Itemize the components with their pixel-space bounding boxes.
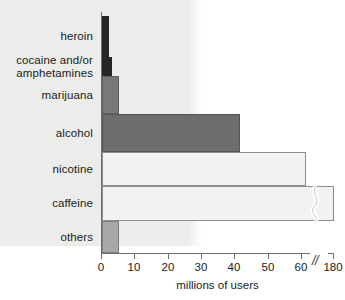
- bar-alcohol: [102, 114, 240, 152]
- category-label-caffeine: caffeine: [0, 197, 93, 210]
- category-label-alcohol: alcohol: [0, 127, 93, 140]
- category-label-nicotine: nicotine: [0, 163, 93, 176]
- axis-break-squiggle-icon: [305, 186, 327, 221]
- x-tick-label-10: 10: [128, 261, 141, 273]
- bar-others: [102, 221, 119, 253]
- category-label-marijuana: marijuana: [0, 89, 93, 102]
- bar-caffeine: [102, 186, 334, 221]
- bar-nicotine: [102, 152, 306, 186]
- x-tick-label-40: 40: [228, 261, 241, 273]
- x-tick-label-60: 60: [295, 261, 308, 273]
- category-label-cocaine-line2: amphetamines: [0, 67, 93, 80]
- category-label-cocaine-amphetamines: cocaine and/or amphetamines: [0, 54, 93, 79]
- x-tick-50: [268, 253, 269, 259]
- x-tick-30: [201, 253, 202, 259]
- x-tick-0: [101, 253, 102, 259]
- x-tick-10: [134, 253, 135, 259]
- x-tick-label-30: 30: [195, 261, 208, 273]
- x-tick-label-50: 50: [262, 261, 275, 273]
- x-axis-line: [101, 253, 334, 254]
- bar-marijuana: [102, 76, 119, 114]
- category-label-cocaine-line1: cocaine and/or: [0, 54, 93, 67]
- x-tick-40: [234, 253, 235, 259]
- x-tick-60: [301, 253, 302, 259]
- x-axis-break-gap: [310, 251, 328, 255]
- x-tick-label-20: 20: [162, 261, 175, 273]
- x-tick-20: [168, 253, 169, 259]
- chart-canvas: heroin cocaine and/or amphetamines marij…: [0, 0, 345, 300]
- x-axis-title: millions of users: [101, 279, 334, 291]
- x-tick-180: [333, 253, 334, 259]
- x-tick-label-180: 180: [323, 261, 342, 273]
- bar-cocaine-amphetamines: [102, 57, 112, 76]
- bar-heroin: [102, 16, 109, 57]
- category-label-heroin: heroin: [0, 30, 93, 43]
- x-tick-label-0: 0: [98, 261, 104, 273]
- category-label-others: others: [0, 231, 93, 244]
